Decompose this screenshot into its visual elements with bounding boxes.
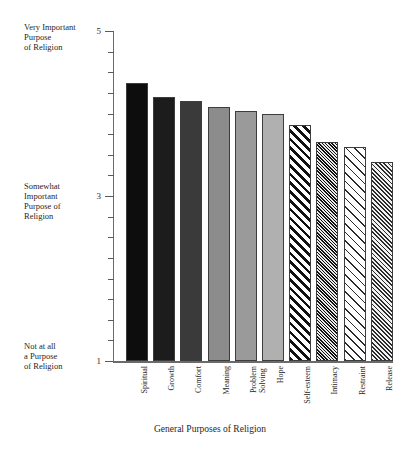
bar (153, 97, 175, 361)
x-axis-tick-label: Spiritual (141, 366, 150, 394)
x-axis-tick-label: Intimacy (331, 366, 340, 394)
bar (371, 162, 393, 361)
x-axis-tick-label: Problem Solving (250, 366, 267, 393)
x-axis-tick-label: Self-esteem (304, 366, 313, 404)
bar (289, 125, 311, 361)
bar (235, 111, 257, 361)
x-axis-tick-label: Meaning (223, 366, 232, 394)
bar (126, 83, 148, 361)
x-axis-tick-label: Hope (277, 366, 286, 383)
x-axis-tick-label: Growth (168, 366, 177, 390)
x-axis-title: General Purposes of Religion (0, 424, 420, 434)
bar (180, 101, 202, 361)
bars-container (0, 0, 420, 454)
x-axis-tick-label: Restraint (359, 366, 368, 395)
bar-chart: Very Important Purpose of Religion Somew… (0, 0, 420, 454)
bar (208, 107, 230, 361)
x-axis-tick-label: Release (386, 366, 395, 391)
bar (344, 147, 366, 361)
bar (262, 114, 284, 361)
bar (316, 142, 338, 361)
x-axis-tick-label: Comfort (195, 366, 204, 393)
